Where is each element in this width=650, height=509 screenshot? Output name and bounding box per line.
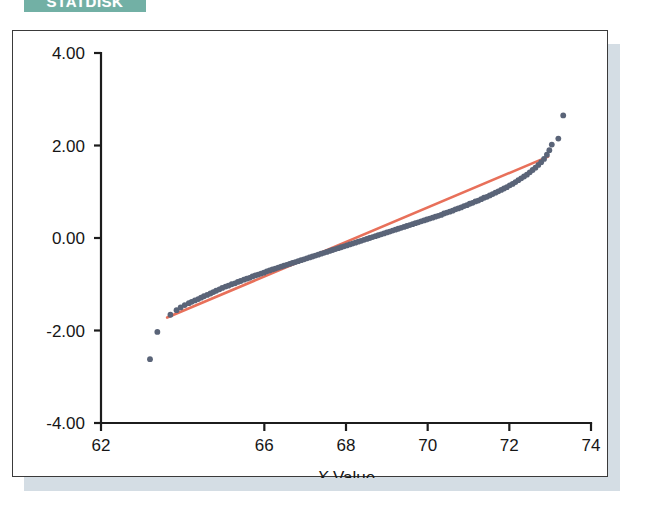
x-axis-title: X Value xyxy=(316,468,375,478)
x-tick-label: 68 xyxy=(337,436,356,455)
y-tick-label: 0.00 xyxy=(52,229,85,248)
y-tick-label: -2.00 xyxy=(46,322,85,341)
scatter-point xyxy=(555,136,561,142)
x-tick-label: 72 xyxy=(500,436,519,455)
chart-card: 4.002.000.00-2.00-4.00626668707274X Valu… xyxy=(12,30,608,477)
y-tick-label: -4.00 xyxy=(46,414,85,433)
x-tick-label: 62 xyxy=(92,436,111,455)
scatter-point xyxy=(168,312,174,318)
scatter-point xyxy=(546,147,552,153)
y-tick-label: 2.00 xyxy=(52,137,85,156)
scatter-point xyxy=(154,329,160,335)
reference-line xyxy=(167,157,548,318)
statdisk-banner-label: STATDISK xyxy=(47,0,124,10)
screenshot-root: STATDISK 4.002.000.00-2.00-4.00626668707… xyxy=(0,0,650,509)
statdisk-banner: STATDISK xyxy=(24,0,146,12)
scatter-point xyxy=(549,142,555,148)
x-tick-label: 70 xyxy=(418,436,437,455)
y-tick-label: 4.00 xyxy=(52,44,85,63)
qq-plot-svg: 4.002.000.00-2.00-4.00626668707274X Valu… xyxy=(13,31,609,478)
scatter-point xyxy=(147,356,153,362)
scatter-point xyxy=(560,113,566,119)
x-tick-label: 74 xyxy=(582,436,601,455)
qq-plot: 4.002.000.00-2.00-4.00626668707274X Valu… xyxy=(13,31,609,478)
x-tick-label: 66 xyxy=(255,436,274,455)
